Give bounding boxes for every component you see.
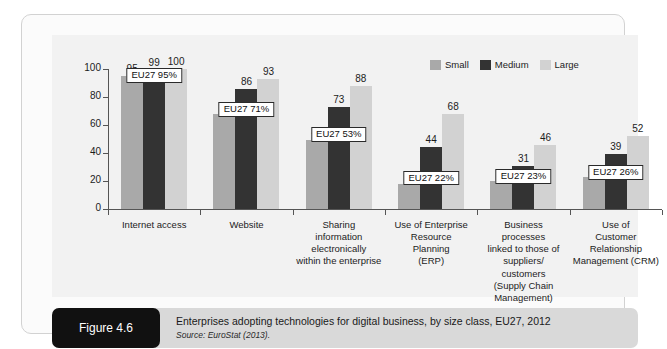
legend-swatch-large bbox=[540, 60, 551, 70]
category-label-line: customers bbox=[466, 268, 580, 280]
bar-large[interactable]: 100 bbox=[165, 69, 187, 209]
category-label-line: Relationship bbox=[559, 243, 667, 255]
bar-value-label: 46 bbox=[540, 133, 551, 143]
bar-large[interactable]: 68 bbox=[442, 114, 464, 209]
x-tick-mark bbox=[662, 210, 663, 215]
bar-small[interactable]: 95 bbox=[121, 76, 143, 209]
bar-group: 203146EU27 23% bbox=[477, 69, 569, 209]
bar-large[interactable]: 88 bbox=[350, 86, 372, 209]
y-tick-label: 40 bbox=[90, 146, 101, 157]
y-tick-label: 80 bbox=[90, 90, 101, 101]
category-label-line: Management (CRM) bbox=[559, 255, 667, 267]
x-tick-mark bbox=[385, 210, 386, 215]
bar-value-label: 88 bbox=[355, 74, 366, 84]
bar-small[interactable]: 68 bbox=[213, 114, 235, 209]
bar-group: 233952EU27 26% bbox=[570, 69, 662, 209]
bar-value-label: 68 bbox=[448, 102, 459, 112]
bar-small[interactable]: 23 bbox=[583, 177, 605, 209]
figure-caption-bar: Figure 4.6 Enterprises adopting technolo… bbox=[52, 308, 638, 348]
eu27-annotation: EU27 71% bbox=[219, 102, 274, 117]
bar-small[interactable]: 49 bbox=[306, 140, 328, 209]
category-label-line: Customer bbox=[559, 231, 667, 243]
bar-group-bars: 688693 bbox=[200, 69, 292, 209]
bar-value-label: 73 bbox=[333, 95, 344, 105]
bar-group: 497388EU27 53% bbox=[293, 69, 385, 209]
bar-group: 688693EU27 71% bbox=[200, 69, 292, 209]
bar-medium[interactable]: 39 bbox=[605, 154, 627, 209]
chart-area: Small Medium Large 020406080100 9599100E… bbox=[52, 35, 638, 297]
plot-region: 020406080100 9599100EU27 95%688693EU27 7… bbox=[108, 69, 662, 209]
y-tick-label: 60 bbox=[90, 118, 101, 129]
bar-medium[interactable]: 99 bbox=[143, 70, 165, 209]
eu27-annotation: EU27 26% bbox=[588, 165, 643, 180]
x-tick-mark bbox=[293, 210, 294, 215]
x-tick-mark bbox=[570, 210, 571, 215]
plot-inner: 020406080100 9599100EU27 95%688693EU27 7… bbox=[108, 69, 662, 209]
bar-group-bars: 184468 bbox=[385, 69, 477, 209]
bar-group-bars: 203146 bbox=[477, 69, 569, 209]
bar-medium[interactable]: 73 bbox=[328, 107, 350, 209]
figure-caption: Enterprises adopting technologies for di… bbox=[176, 315, 628, 328]
bar-group-bars: 9599100 bbox=[108, 69, 200, 209]
bar-group-bars: 233952 bbox=[570, 69, 662, 209]
figure-number-tag: Figure 4.6 bbox=[52, 308, 160, 348]
legend-swatch-medium bbox=[480, 60, 491, 70]
eu27-annotation: EU27 23% bbox=[496, 169, 551, 184]
figure-frame: Small Medium Large 020406080100 9599100E… bbox=[21, 14, 625, 334]
bar-small[interactable]: 20 bbox=[490, 181, 512, 209]
bar-value-label: 39 bbox=[610, 142, 621, 152]
bar-large[interactable]: 93 bbox=[257, 79, 279, 209]
x-tick-mark bbox=[108, 210, 109, 215]
bar-value-label: 99 bbox=[149, 58, 160, 68]
bar-value-label: 44 bbox=[426, 135, 437, 145]
bar-small[interactable]: 18 bbox=[398, 184, 420, 209]
legend-swatch-small bbox=[430, 60, 441, 70]
category-label-line: Use of bbox=[559, 219, 667, 231]
eu27-annotation: EU27 95% bbox=[126, 68, 181, 83]
eu27-annotation: EU27 53% bbox=[311, 127, 366, 142]
category-label-line: Management) bbox=[466, 292, 580, 304]
y-tick-label: 100 bbox=[84, 62, 101, 73]
category-label-line: (Supply Chain bbox=[466, 280, 580, 292]
bar-value-label: 93 bbox=[263, 67, 274, 77]
eu27-annotation: EU27 22% bbox=[403, 171, 458, 186]
bar-group: 184468EU27 22% bbox=[385, 69, 477, 209]
y-tick-label: 20 bbox=[90, 174, 101, 185]
bar-value-label: 52 bbox=[632, 124, 643, 134]
x-tick-mark bbox=[200, 210, 201, 215]
bar-group: 9599100EU27 95% bbox=[108, 69, 200, 209]
x-tick-mark bbox=[477, 210, 478, 215]
figure-source: Source: EuroStat (2013). bbox=[176, 330, 628, 340]
bar-value-label: 86 bbox=[241, 77, 252, 87]
y-tick-label: 0 bbox=[95, 202, 101, 213]
bar-value-label: 31 bbox=[518, 154, 529, 164]
caption-text-block: Enterprises adopting technologies for di… bbox=[176, 315, 628, 340]
bar-value-label: 100 bbox=[168, 57, 185, 67]
category-label: Use ofCustomerRelationshipManagement (CR… bbox=[559, 219, 667, 268]
